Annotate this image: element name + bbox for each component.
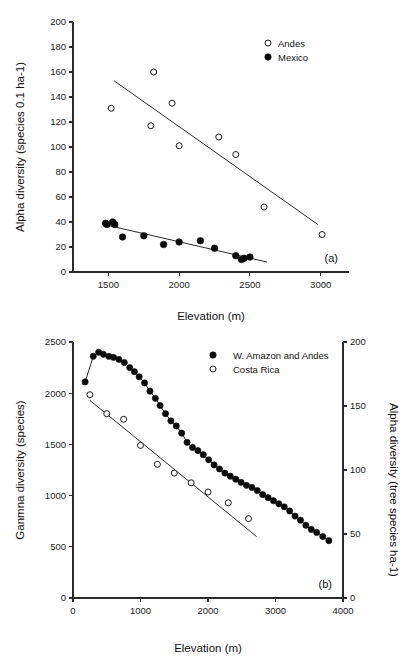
panel-a-label: (a)	[325, 252, 338, 264]
x-tick-label: 1500	[98, 279, 119, 290]
data-point	[261, 204, 267, 210]
data-point	[108, 105, 114, 111]
panel-a-x-ticks: 1500200025003000	[98, 272, 331, 290]
data-point	[206, 457, 212, 463]
legend-label-costarica: Costa Rica	[233, 364, 280, 375]
y-tick-label: 160	[50, 66, 66, 77]
data-point	[176, 143, 182, 149]
y-tick-label: 80	[55, 166, 66, 177]
data-point	[131, 369, 137, 375]
panel-b-plot: 05001000150020002500 050100150200 010002…	[0, 330, 404, 661]
y-tick-label: 180	[50, 41, 66, 52]
panel-b-right-y-ticks: 050100150200	[343, 336, 366, 603]
panel-b-x-ticks: 01000200030004000	[70, 598, 353, 616]
x-tick-label: 1000	[130, 605, 151, 616]
panel-a-y-axis-label: Alpha diversity (species 0.1 ha-1)	[14, 62, 26, 232]
right-y-tick-label: 100	[350, 464, 366, 475]
legend-label-wamazon: W. Amazon and Andes	[233, 350, 329, 361]
data-point	[200, 452, 206, 458]
left-y-tick-label: 2000	[45, 388, 66, 399]
y-tick-label: 20	[55, 241, 66, 252]
y-tick-label: 200	[50, 16, 66, 27]
data-point	[162, 411, 168, 417]
data-point	[104, 411, 110, 417]
data-point	[216, 466, 222, 472]
panel-b-label: (b)	[319, 578, 332, 590]
right-y-tick-label: 50	[350, 528, 361, 539]
panel-b-right-y-axis-label: Alpha diversity (tree species ha-1)	[388, 403, 400, 577]
panel-a-y-ticks: 020406080100120140160180200	[50, 16, 73, 277]
data-point	[297, 517, 303, 523]
data-point	[147, 388, 153, 394]
x-tick-label: 0	[70, 605, 75, 616]
panel-b-x-axis-label: Elevation (m)	[174, 642, 242, 654]
y-tick-label: 0	[61, 266, 66, 277]
data-point	[205, 489, 211, 495]
legend-label-mexico: Mexico	[278, 52, 308, 63]
x-tick-label: 4000	[332, 605, 353, 616]
left-y-tick-label: 1000	[45, 490, 66, 501]
y-tick-label: 60	[55, 191, 66, 202]
right-y-tick-label: 150	[350, 400, 366, 411]
panel-b-data-layer	[82, 349, 332, 544]
data-point	[281, 504, 287, 510]
data-point	[211, 462, 217, 468]
data-point	[151, 69, 157, 75]
y-tick-label: 140	[50, 91, 66, 102]
panel-a-legend: Andes Mexico	[265, 38, 308, 63]
right-y-tick-label: 0	[350, 592, 355, 603]
left-y-tick-label: 500	[50, 541, 66, 552]
data-point	[303, 522, 309, 528]
data-point	[157, 402, 163, 408]
data-point	[246, 516, 252, 522]
data-point	[197, 237, 204, 244]
trendline-andes	[114, 81, 318, 225]
panel-b: 05001000150020002500 050100150200 010002…	[0, 330, 404, 661]
legend-marker-andes	[265, 40, 271, 46]
data-point	[140, 232, 147, 239]
data-point	[292, 513, 298, 519]
data-point	[188, 480, 194, 486]
y-tick-label: 120	[50, 116, 66, 127]
data-point	[82, 379, 88, 385]
x-tick-label: 2000	[169, 279, 190, 290]
y-tick-label: 100	[50, 141, 66, 152]
panel-b-left-y-axis-label: Ganmna diversity (species)	[14, 400, 26, 539]
data-point	[87, 392, 93, 398]
data-point	[168, 418, 174, 424]
data-point	[111, 221, 118, 228]
legend-marker-wamazon	[210, 352, 216, 358]
data-point	[169, 100, 175, 106]
data-point	[90, 353, 96, 359]
data-point	[179, 430, 185, 436]
data-point	[287, 508, 293, 514]
x-tick-label: 3000	[310, 279, 331, 290]
panel-b-legend: W. Amazon and Andes Costa Rica	[210, 350, 329, 375]
data-point	[320, 533, 326, 539]
data-point	[225, 500, 231, 506]
panel-a-data-layer	[102, 69, 325, 263]
y-tick-label: 40	[55, 216, 66, 227]
right-y-tick-label: 200	[350, 336, 366, 347]
x-tick-label: 2000	[197, 605, 218, 616]
data-point	[326, 538, 332, 544]
left-y-tick-label: 0	[61, 592, 66, 603]
left-y-tick-label: 2500	[45, 336, 66, 347]
data-point	[152, 395, 158, 401]
panel-b-axes	[73, 342, 343, 598]
data-point	[154, 461, 160, 467]
data-point	[138, 442, 144, 448]
data-point	[173, 423, 179, 429]
legend-marker-mexico	[265, 54, 271, 60]
data-point	[216, 134, 222, 140]
left-y-tick-label: 1500	[45, 439, 66, 450]
legend-marker-costarica	[210, 366, 216, 372]
legend-label-andes: Andes	[278, 38, 305, 49]
x-tick-label: 3000	[265, 605, 286, 616]
data-point	[232, 252, 239, 259]
data-point	[160, 241, 167, 248]
figure-root: 020406080100120140160180200 150020002500…	[0, 0, 404, 661]
data-point	[195, 447, 201, 453]
data-point	[121, 416, 127, 422]
data-point	[247, 254, 254, 261]
